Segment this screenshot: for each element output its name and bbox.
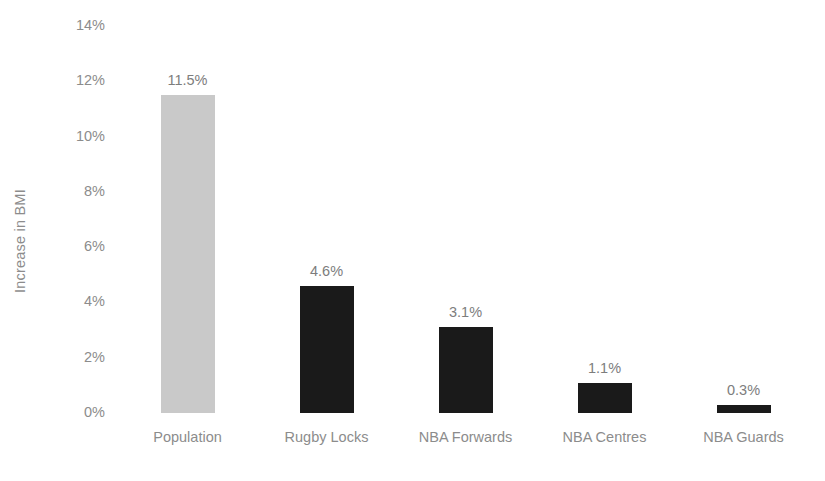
bar-value-label: 4.6% xyxy=(310,263,343,279)
x-axis-category: Population xyxy=(118,428,257,446)
x-axis-category-label: Population xyxy=(153,429,222,445)
x-axis-category-label: NBA Centres xyxy=(563,429,647,445)
x-axis-category-label: NBA Forwards xyxy=(419,429,512,445)
y-axis-tick-label: 10% xyxy=(76,128,105,144)
bar-value-label: 0.3% xyxy=(727,382,760,398)
y-axis-tick-label: 14% xyxy=(76,17,105,33)
y-axis-title: Increase in BMI xyxy=(0,0,70,481)
x-axis-category: Rugby Locks xyxy=(257,428,396,446)
x-axis-category-layer: PopulationRugby LocksNBA ForwardsNBA Cen… xyxy=(118,428,813,458)
x-axis-category-label: Rugby Locks xyxy=(285,429,369,445)
bar-group[interactable]: 11.5% xyxy=(118,26,257,413)
bar-group[interactable]: 1.1% xyxy=(535,26,674,413)
bar[interactable] xyxy=(300,286,354,413)
y-axis-tick-label: 8% xyxy=(84,183,105,199)
bar-group[interactable]: 0.3% xyxy=(674,26,813,413)
y-axis-tick-label: 12% xyxy=(76,72,105,88)
bar[interactable] xyxy=(717,405,771,413)
bar-value-label: 3.1% xyxy=(449,304,482,320)
x-axis-category: NBA Forwards xyxy=(396,428,535,446)
bar[interactable] xyxy=(578,383,632,413)
bar-group[interactable]: 3.1% xyxy=(396,26,535,413)
y-axis-title-label: Increase in BMI xyxy=(12,189,28,293)
x-axis-category: NBA Guards xyxy=(674,428,813,446)
x-axis-category: NBA Centres xyxy=(535,428,674,446)
x-axis-category-label: NBA Guards xyxy=(703,429,784,445)
bmi-increase-bar-chart: Increase in BMI 0%2%4%6%8%10%12%14% 11.5… xyxy=(0,0,825,481)
bar[interactable] xyxy=(439,327,493,413)
y-axis-tick-label: 0% xyxy=(84,404,105,420)
y-axis-tick-label: 6% xyxy=(84,238,105,254)
bar[interactable] xyxy=(161,95,215,413)
y-axis-tick-label: 4% xyxy=(84,293,105,309)
bar-value-label: 11.5% xyxy=(167,72,207,88)
plot-area: 11.5%4.6%3.1%1.1%0.3% xyxy=(118,26,813,413)
y-axis-tick-label: 2% xyxy=(84,349,105,365)
bar-value-label: 1.1% xyxy=(588,360,621,376)
bar-group[interactable]: 4.6% xyxy=(257,26,396,413)
